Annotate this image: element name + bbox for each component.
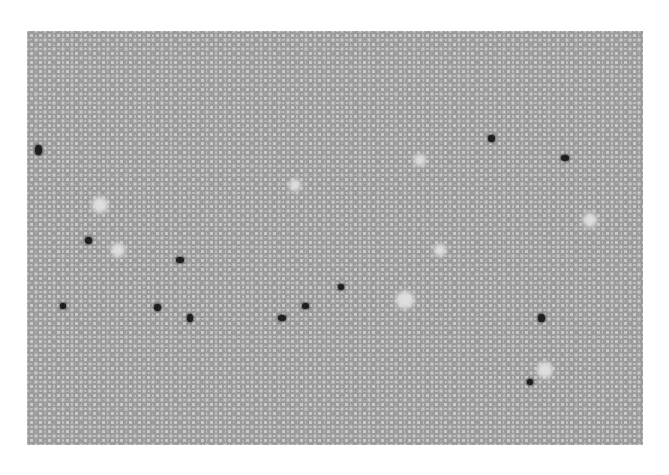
stained-cell <box>176 257 184 263</box>
stained-cell <box>302 303 309 309</box>
stained-cell <box>488 135 495 142</box>
stained-cell <box>561 155 569 161</box>
stained-cell <box>278 315 286 321</box>
stained-cell <box>60 303 66 309</box>
smear-clearing <box>111 243 125 257</box>
stained-cell <box>154 304 161 311</box>
smear-clearing <box>537 362 553 378</box>
stained-cell <box>85 237 92 244</box>
blood-smear-micrograph <box>27 31 643 445</box>
stained-cell <box>527 379 533 385</box>
stained-cell <box>538 314 545 322</box>
stained-cell <box>35 145 42 155</box>
smear-clearing <box>583 213 597 227</box>
smear-clearing <box>92 197 108 213</box>
smear-clearing <box>414 154 426 166</box>
smear-clearing <box>434 244 446 256</box>
stained-cell <box>187 314 193 322</box>
smear-clearing <box>396 291 414 309</box>
smear-clearing <box>289 179 301 191</box>
stained-cell <box>338 284 344 290</box>
